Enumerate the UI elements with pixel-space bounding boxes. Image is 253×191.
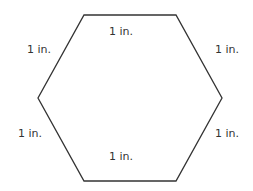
label-upper-left-side: 1 in.: [27, 44, 51, 55]
label-bottom-side: 1 in.: [109, 151, 133, 162]
label-lower-right-side: 1 in.: [215, 128, 239, 139]
label-lower-left-side: 1 in.: [18, 128, 42, 139]
label-top-side: 1 in.: [109, 26, 133, 37]
label-upper-right-side: 1 in.: [215, 44, 239, 55]
